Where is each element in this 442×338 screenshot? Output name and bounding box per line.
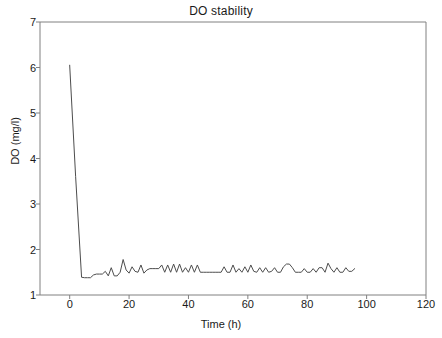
- data-line-do: [70, 65, 355, 277]
- data-series-group: [70, 65, 355, 277]
- plot-area: [0, 0, 442, 338]
- plot-frame: [40, 22, 426, 295]
- axis-ticks: [36, 22, 426, 299]
- chart-figure: DO stability DO (mg/l) Time (h) 1234567 …: [0, 0, 442, 338]
